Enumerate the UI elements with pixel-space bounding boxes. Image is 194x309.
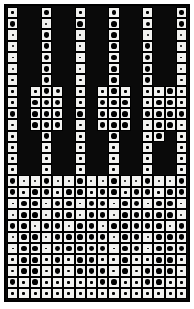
matrix-cell: [75, 198, 86, 209]
matrix-cell: [63, 131, 74, 142]
magnitude-blob: [112, 157, 115, 160]
magnitude-blob: [111, 43, 117, 49]
matrix-cell: [63, 187, 74, 198]
magnitude-blob: [111, 122, 117, 128]
magnitude-blob: [102, 180, 104, 182]
matrix-cell: [97, 232, 108, 243]
magnitude-blob: [113, 214, 115, 216]
matrix-cell: [18, 198, 29, 209]
matrix-cell: [75, 108, 86, 119]
magnitude-blob: [55, 122, 61, 128]
magnitude-blob: [11, 11, 14, 14]
matrix-cell: [75, 187, 86, 198]
magnitude-blob: [77, 246, 83, 252]
magnitude-blob: [157, 292, 160, 295]
matrix-cell: [41, 243, 52, 254]
matrix-cell: [142, 220, 153, 231]
magnitude-blob: [79, 135, 82, 138]
matrix-cell: [165, 277, 176, 288]
matrix-cell: [41, 232, 52, 243]
matrix-cell: [41, 119, 52, 130]
matrix-cell: [7, 63, 18, 74]
magnitude-blob: [10, 189, 16, 195]
matrix-cell: [18, 243, 29, 254]
magnitude-blob: [10, 279, 16, 285]
magnitude-blob: [32, 189, 38, 195]
matrix-cell: [120, 97, 131, 108]
matrix-cell: [30, 131, 41, 142]
matrix-cell: [176, 97, 187, 108]
matrix-cell: [108, 142, 119, 153]
magnitude-blob: [79, 57, 81, 59]
magnitude-blob: [10, 223, 16, 229]
magnitude-blob: [12, 203, 14, 205]
matrix-cell: [75, 63, 86, 74]
magnitude-blob: [167, 246, 173, 252]
matrix-cell: [52, 153, 63, 164]
matrix-cell: [131, 86, 142, 97]
matrix-cell: [7, 108, 18, 119]
matrix-cell: [63, 277, 74, 288]
matrix-cell: [30, 86, 41, 97]
magnitude-blob: [100, 246, 106, 252]
magnitude-blob: [79, 203, 81, 205]
matrix-cell: [30, 119, 41, 130]
magnitude-blob: [134, 246, 140, 252]
matrix-cell: [153, 175, 164, 186]
matrix-cell: [30, 288, 41, 299]
matrix-cell: [86, 86, 97, 97]
matrix-cell: [52, 18, 63, 29]
magnitude-blob: [44, 77, 50, 83]
magnitude-blob: [55, 257, 61, 263]
magnitude-blob: [180, 258, 183, 261]
matrix-cell: [108, 198, 119, 209]
matrix-cell: [63, 153, 74, 164]
magnitude-blob: [146, 124, 149, 127]
matrix-cell: [63, 41, 74, 52]
matrix-cell: [176, 254, 187, 265]
matrix-cell: [131, 232, 142, 243]
matrix-cell: [176, 288, 187, 299]
magnitude-blob: [180, 146, 183, 149]
matrix-cell: [176, 277, 187, 288]
matrix-cell: [142, 142, 153, 153]
matrix-cell: [52, 97, 63, 108]
matrix-cell: [108, 187, 119, 198]
magnitude-blob: [66, 201, 72, 207]
magnitude-blob: [122, 201, 128, 207]
matrix-cell: [176, 86, 187, 97]
magnitude-blob: [146, 292, 149, 295]
matrix-cell: [30, 153, 41, 164]
matrix-cell: [63, 288, 74, 299]
magnitude-blob: [55, 246, 61, 252]
matrix-cell: [52, 52, 63, 63]
magnitude-blob: [179, 223, 185, 229]
matrix-cell: [97, 74, 108, 85]
matrix-cell: [176, 175, 187, 186]
magnitude-blob: [12, 68, 14, 70]
magnitude-blob: [79, 146, 82, 149]
magnitude-blob: [67, 258, 70, 261]
matrix-cell: [176, 41, 187, 52]
magnitude-blob: [21, 223, 27, 229]
matrix-cell: [131, 18, 142, 29]
matrix-cell: [165, 209, 176, 220]
magnitude-blob: [45, 258, 48, 261]
matrix-cell: [176, 18, 187, 29]
magnitude-blob: [32, 122, 38, 128]
magnitude-blob: [145, 223, 151, 229]
matrix-cell: [75, 131, 86, 142]
matrix-cell: [165, 63, 176, 74]
matrix-cell: [97, 175, 108, 186]
magnitude-blob: [169, 292, 172, 295]
magnitude-blob: [10, 178, 16, 184]
matrix-cell: [75, 7, 86, 18]
matrix-cell: [52, 232, 63, 243]
magnitude-blob: [180, 68, 182, 70]
matrix-cell: [41, 86, 52, 97]
matrix-cell: [18, 265, 29, 276]
magnitude-blob: [44, 223, 50, 229]
matrix-cell: [153, 142, 164, 153]
matrix-cell: [63, 209, 74, 220]
matrix-cell: [63, 164, 74, 175]
